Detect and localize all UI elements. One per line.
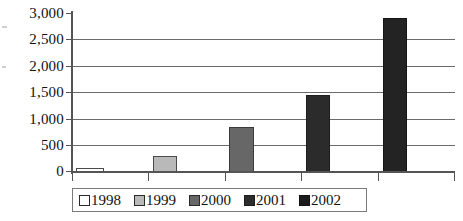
bar-chart: 3,000 2,500 2,000 1,500 1,000 500 0 xyxy=(0,0,463,221)
y-tick-label-2500: 2,500 xyxy=(2,31,64,48)
bar-2001 xyxy=(306,95,330,172)
bar-1999 xyxy=(153,156,177,172)
x-axis-tick xyxy=(454,173,455,181)
y-tick-label-1500: 1,500 xyxy=(2,84,64,101)
legend-label: 2002 xyxy=(311,192,341,209)
legend-label: 2000 xyxy=(201,192,231,209)
x-axis-line xyxy=(71,171,455,173)
x-axis-tick xyxy=(378,173,379,181)
bar-2000 xyxy=(229,127,254,172)
x-axis-tick xyxy=(301,173,302,181)
legend-item-2002[interactable]: 2002 xyxy=(299,192,341,209)
legend-swatch-icon xyxy=(189,195,200,206)
legend-swatch-icon xyxy=(244,195,255,206)
legend-item-2000[interactable]: 2000 xyxy=(189,192,231,209)
y-tick-label-3000: 3,000 xyxy=(2,5,64,22)
x-axis-tick xyxy=(72,173,73,181)
legend-label: 1998 xyxy=(91,192,121,209)
y-tick-label-2000: 2,000 xyxy=(2,58,64,75)
y-tick-label-1000: 1,000 xyxy=(2,111,64,128)
chart-legend: 1998 1999 2000 2001 2002 xyxy=(72,188,367,212)
legend-item-1998[interactable]: 1998 xyxy=(79,192,121,209)
legend-item-2001[interactable]: 2001 xyxy=(244,192,286,209)
y-axis-line xyxy=(71,11,73,174)
legend-item-1999[interactable]: 1999 xyxy=(134,192,176,209)
legend-label: 2001 xyxy=(256,192,286,209)
y-tick-label-500: 500 xyxy=(2,137,64,154)
x-axis-tick xyxy=(225,173,226,181)
legend-swatch-icon xyxy=(299,195,310,206)
legend-swatch-icon xyxy=(79,195,90,206)
bar-2002 xyxy=(383,18,407,172)
plot-area xyxy=(72,13,455,172)
legend-label: 1999 xyxy=(146,192,176,209)
x-axis-tick xyxy=(148,173,149,181)
y-tick-label-0: 0 xyxy=(2,163,64,180)
y-axis-labels: 3,000 2,500 2,000 1,500 1,000 500 0 xyxy=(0,0,64,221)
legend-swatch-icon xyxy=(134,195,145,206)
